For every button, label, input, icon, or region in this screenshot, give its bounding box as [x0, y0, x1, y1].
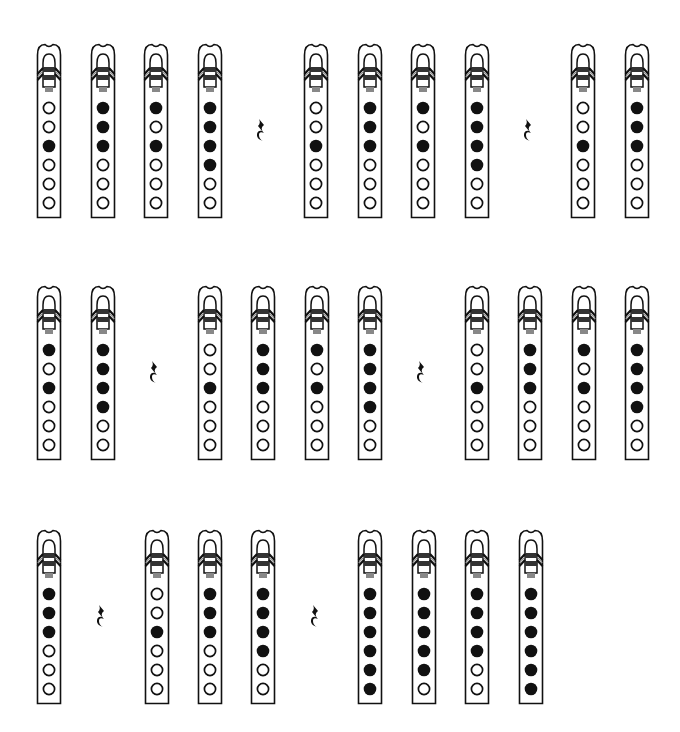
flute-fingering-diagram [197, 285, 223, 461]
quarter-rest-icon [95, 604, 109, 630]
flute-fingering-diagram [410, 43, 436, 219]
fingering-row-1 [0, 43, 680, 219]
flute-fingering-diagram [518, 529, 544, 705]
flute-fingering-diagram [304, 285, 330, 461]
flute-fingering-diagram [144, 529, 170, 705]
fingering-row-3 [0, 529, 680, 705]
fingering-row-2 [0, 285, 680, 461]
flute-fingering-diagram [624, 43, 650, 219]
flute-fingering-diagram [570, 43, 596, 219]
flute-fingering-diagram [357, 285, 383, 461]
flute-fingering-diagram [411, 529, 437, 705]
quarter-rest-icon [415, 360, 429, 386]
flute-fingering-diagram [464, 285, 490, 461]
flute-fingering-diagram [90, 285, 116, 461]
flute-fingering-diagram [464, 43, 490, 219]
flute-fingering-diagram [250, 285, 276, 461]
flute-fingering-diagram [250, 529, 276, 705]
flute-fingering-diagram [197, 43, 223, 219]
flute-fingering-diagram [36, 285, 62, 461]
flute-fingering-diagram [197, 529, 223, 705]
flute-fingering-diagram [36, 43, 62, 219]
quarter-rest-icon [255, 118, 269, 144]
flute-fingering-diagram [303, 43, 329, 219]
flute-fingering-diagram [36, 529, 62, 705]
fingering-chart [0, 0, 680, 732]
flute-fingering-diagram [357, 529, 383, 705]
flute-fingering-diagram [90, 43, 116, 219]
quarter-rest-icon [148, 360, 162, 386]
flute-fingering-diagram [464, 529, 490, 705]
flute-fingering-diagram [143, 43, 169, 219]
flute-fingering-diagram [624, 285, 650, 461]
flute-fingering-diagram [571, 285, 597, 461]
quarter-rest-icon [522, 118, 536, 144]
flute-fingering-diagram [357, 43, 383, 219]
flute-fingering-diagram [517, 285, 543, 461]
quarter-rest-icon [309, 604, 323, 630]
